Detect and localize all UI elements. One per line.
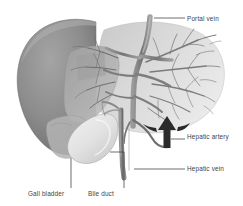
hepatic-vein (129, 126, 131, 182)
label-hepatic-vein: Hepatic vein (187, 165, 224, 173)
label-portal-vein: Portal vein (187, 15, 219, 23)
label-bile-duct: Bile duct (88, 190, 114, 198)
anatomy-illustration (0, 0, 243, 206)
label-gall-bladder: Gall bladder (28, 190, 64, 198)
liver-anatomy-figure: Portal vein Hepatic artery Hepatic vein … (0, 0, 243, 206)
label-hepatic-artery: Hepatic artery (187, 133, 229, 141)
